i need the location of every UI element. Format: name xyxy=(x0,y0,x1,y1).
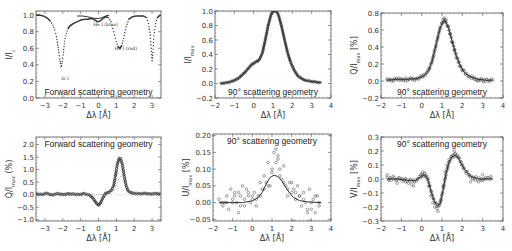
data-point xyxy=(60,63,61,64)
line-annotation: Si I xyxy=(61,76,69,81)
y-tick-label: 0.6 xyxy=(202,37,214,45)
data-point xyxy=(116,41,117,42)
y-tick-label: 0.2 xyxy=(368,148,379,156)
data-point xyxy=(253,191,256,194)
panel-intensity-forward: −3−2−101230.00.20.40.60.81.0Δλ [Å]I/IcSi… xyxy=(5,11,161,120)
y-tick-label: 0.0 xyxy=(23,95,34,103)
data-point xyxy=(237,211,240,214)
data-point xyxy=(453,150,456,153)
data-point xyxy=(152,57,153,58)
figure: −3−2−101230.00.20.40.60.81.0Δλ [Å]I/IcSi… xyxy=(0,0,512,251)
data-point xyxy=(112,28,113,29)
data-point xyxy=(237,191,240,194)
data-point xyxy=(310,208,313,211)
x-tick-label: 2 xyxy=(132,102,136,110)
x-tick-label: −1 xyxy=(396,225,406,233)
y-axis-label: I/Ic xyxy=(5,49,16,59)
x-tick-label: 0 xyxy=(96,102,100,110)
data-point xyxy=(412,185,415,188)
data-point xyxy=(241,185,244,188)
data-point xyxy=(239,195,242,198)
plot-area xyxy=(386,17,494,83)
data-point xyxy=(314,211,317,214)
data-point xyxy=(275,148,278,151)
data-point xyxy=(151,60,152,61)
data-point xyxy=(222,205,225,208)
y-label-sub: max xyxy=(187,175,193,186)
y-tick-label: 0.1 xyxy=(368,162,379,170)
data-point xyxy=(61,65,62,66)
data-point xyxy=(243,198,246,201)
data-point xyxy=(150,41,151,42)
data-point xyxy=(290,191,293,194)
data-point xyxy=(54,29,55,30)
data-point xyxy=(155,23,156,24)
data-point xyxy=(263,175,266,178)
data-point xyxy=(56,39,57,40)
plot-frame xyxy=(381,13,503,98)
data-point xyxy=(247,195,250,198)
y-tick-label: 1.0 xyxy=(202,8,213,16)
y-axis-label: U/Imax [%] xyxy=(182,158,193,196)
y-tick-label: 0.4 xyxy=(202,51,214,59)
x-tick-label: −2 xyxy=(210,102,220,110)
data-point xyxy=(149,29,150,30)
y-tick-label: −0.2 xyxy=(362,204,379,212)
data-point xyxy=(294,191,297,194)
data-point xyxy=(148,23,149,24)
data-point xyxy=(57,44,58,45)
data-point xyxy=(64,38,65,39)
y-axis-label: Q/Imax (%) xyxy=(5,160,16,199)
data-point xyxy=(239,205,242,208)
data-point xyxy=(151,51,152,52)
x-tick-label: 1 xyxy=(114,225,118,233)
y-label-sub: max xyxy=(10,176,16,187)
data-point xyxy=(125,29,126,30)
x-tick-label: 1 xyxy=(440,102,444,110)
y-tick-label: 0.20 xyxy=(195,132,211,140)
data-point xyxy=(454,153,456,155)
data-point xyxy=(63,46,64,47)
x-axis-label: Δλ [Å] xyxy=(86,109,110,120)
data-point xyxy=(469,181,472,184)
y-axis-label: V/Imax [%] xyxy=(350,160,361,198)
data-point xyxy=(255,205,258,208)
data-point xyxy=(437,210,440,213)
y-tick-label: 1.5 xyxy=(23,154,34,162)
data-point xyxy=(108,17,109,18)
x-tick-label: 4 xyxy=(329,102,334,110)
model-curve xyxy=(387,21,493,80)
x-tick-label: −2 xyxy=(58,102,68,110)
data-point xyxy=(59,58,60,59)
y-tick-label: 1.0 xyxy=(23,12,34,20)
data-point xyxy=(487,80,489,82)
data-point xyxy=(267,161,270,164)
data-point xyxy=(109,19,110,20)
data-point xyxy=(229,188,232,191)
plot-frame xyxy=(36,137,161,221)
geometry-caption: Forward scattering geometry xyxy=(44,87,153,97)
x-tick-label: 0 xyxy=(419,225,423,233)
data-point xyxy=(114,34,115,35)
data-point xyxy=(490,78,492,80)
data-point xyxy=(302,198,305,201)
x-tick-label: 0 xyxy=(96,225,100,233)
x-tick-label: −3 xyxy=(40,102,50,110)
x-tick-label: 4 xyxy=(501,225,506,233)
y-tick-label: 0.0 xyxy=(368,176,379,184)
data-point xyxy=(117,43,118,44)
x-tick-label: 1 xyxy=(271,102,275,110)
data-point xyxy=(152,48,153,49)
y-label-base: U/I xyxy=(182,186,191,197)
panel-q-forward: −3−2−10123−1.0−0.50.00.51.01.52.0Δλ [Å]Q… xyxy=(5,137,161,243)
x-tick-label: 3 xyxy=(309,225,313,233)
data-point xyxy=(147,20,148,21)
geometry-caption: 90° scattering geometry xyxy=(397,139,488,149)
data-point xyxy=(159,15,161,17)
data-point xyxy=(296,185,299,188)
x-tick-label: 0 xyxy=(419,102,423,110)
y-tick-label: 0.4 xyxy=(368,44,380,52)
data-point xyxy=(65,35,66,36)
y-axis-label: I/Imax xyxy=(184,45,195,63)
plot-area xyxy=(35,157,161,206)
